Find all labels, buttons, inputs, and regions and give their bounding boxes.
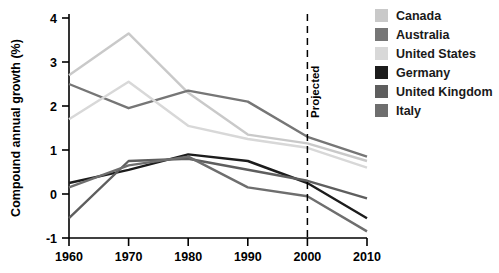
- y-axis-title: Compound annual growth (%): [9, 39, 23, 217]
- projected-annotation-label: Projected: [309, 66, 321, 118]
- x-axis-tick-labels: 196019701980199020002010: [55, 250, 381, 264]
- x-tick-label: 2000: [293, 250, 321, 264]
- legend-item-italy[interactable]: Italy: [375, 104, 493, 117]
- legend-swatch-icon: [375, 47, 388, 60]
- x-tick-label: 1980: [174, 250, 202, 264]
- legend-item-canada[interactable]: Canada: [375, 9, 493, 22]
- legend-swatch-icon: [375, 28, 388, 41]
- legend-swatch-icon: [375, 104, 388, 117]
- legend-swatch-icon: [375, 9, 388, 22]
- y-tick-label: -1: [46, 232, 57, 246]
- legend-item-label: Italy: [396, 104, 421, 118]
- y-tick-label: 0: [50, 188, 57, 202]
- x-tick-label: 2010: [353, 250, 381, 264]
- x-tick-label: 1990: [234, 250, 262, 264]
- legend-item-label: Germany: [396, 66, 450, 80]
- y-tick-label: 2: [50, 100, 57, 114]
- legend-swatch-icon: [375, 85, 388, 98]
- x-tick-label: 1970: [115, 250, 143, 264]
- chart-legend: CanadaAustraliaUnited StatesGermanyUnite…: [375, 9, 493, 117]
- legend-item-label: Canada: [396, 9, 441, 23]
- legend-item-united-kingdom[interactable]: United Kingdom: [375, 85, 493, 98]
- legend-item-label: United Kingdom: [396, 85, 493, 99]
- series-line-australia: [69, 84, 367, 157]
- y-tick-label: 1: [50, 144, 57, 158]
- legend-item-australia[interactable]: Australia: [375, 28, 493, 41]
- series-line-united-states: [69, 82, 367, 168]
- legend-item-germany[interactable]: Germany: [375, 66, 493, 79]
- y-tick-label: 3: [50, 56, 57, 70]
- legend-swatch-icon: [375, 66, 388, 79]
- series-lines: [69, 33, 367, 231]
- y-axis-ticks: [62, 18, 69, 238]
- legend-item-label: Australia: [396, 28, 450, 42]
- series-line-united-kingdom: [69, 159, 367, 218]
- x-axis-ticks: [69, 238, 367, 246]
- chart-container: -101234 196019701980199020002010 Project…: [0, 0, 499, 273]
- y-axis-tick-labels: -101234: [46, 12, 57, 246]
- y-tick-label: 4: [50, 12, 57, 26]
- legend-item-united-states[interactable]: United States: [375, 47, 493, 60]
- series-line-italy: [69, 157, 367, 232]
- legend-item-label: United States: [396, 47, 476, 61]
- x-tick-label: 1960: [55, 250, 83, 264]
